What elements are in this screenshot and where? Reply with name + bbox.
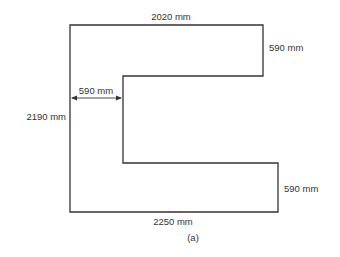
dimension-top-arm-label: 590 mm [269,42,303,53]
figure-caption: (a) [187,232,199,243]
dimension-left-height-label: 2190 mm [26,111,66,122]
diagram-canvas: 2020 mm 590 mm 590 mm 2190 mm 590 mm 225… [0,0,340,257]
shape-outline [70,25,278,212]
dimension-top-label: 2020 mm [151,11,191,22]
dimension-inner-width-label: 590 mm [79,85,113,96]
dimension-bottom-arm-label: 590 mm [284,183,318,194]
dimension-bottom-label: 2250 mm [153,216,193,227]
